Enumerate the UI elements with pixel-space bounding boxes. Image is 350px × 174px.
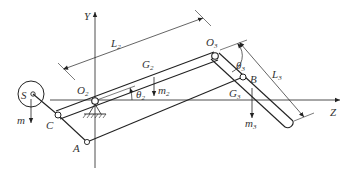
dimension-l2-label: L2: [110, 37, 121, 51]
point-c-label: C: [46, 119, 54, 131]
z-axis-label: Z: [330, 106, 337, 118]
point-a-label: A: [72, 142, 80, 154]
center-of-gravity-g3: G3 m3: [229, 87, 257, 131]
mechanism-diagram: Y Z S m: [0, 0, 350, 174]
g2-label: G2: [142, 58, 154, 72]
g3-label: G3: [229, 87, 241, 101]
mass-m-label: m: [17, 114, 25, 126]
angle-theta3-label: θ3: [236, 59, 245, 73]
joint-o3: [212, 53, 219, 60]
joint-b: [240, 74, 246, 80]
counterweight-s: S m: [17, 81, 44, 126]
point-o2-label: O2: [77, 84, 89, 98]
link-c-a: [58, 115, 87, 142]
point-o3-label: O3: [206, 36, 218, 50]
m2-label: m2: [158, 84, 170, 98]
joint-a: [84, 139, 89, 144]
angle-theta3: θ3: [232, 44, 245, 73]
angle-theta2: θ2: [130, 88, 145, 102]
angle-theta2-label: θ2: [136, 88, 145, 102]
point-b-label: B: [250, 73, 257, 85]
center-of-gravity-g2: G2 m2: [142, 58, 170, 98]
m3-label: m3: [245, 117, 257, 131]
link-s-c: [33, 94, 58, 115]
joint-c: [55, 112, 61, 118]
joint-o2: [92, 98, 99, 105]
point-s-label: S: [21, 89, 27, 101]
dimension-l3-label: L3: [271, 68, 282, 82]
dimension-l2: L2: [58, 10, 211, 80]
y-axis-label: Y: [84, 10, 92, 22]
